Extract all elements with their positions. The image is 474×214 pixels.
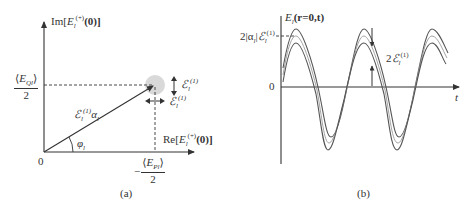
waveform-upper <box>283 29 448 137</box>
e-axis-label: El(r=0,t) <box>285 12 324 26</box>
vert-unc-sub: l <box>188 85 190 93</box>
t-axis-label: t <box>455 92 458 103</box>
origin-label: 0 <box>38 156 44 167</box>
y-tick-sub: Ql <box>26 79 33 87</box>
horiz-unc-sup: (1) <box>178 94 186 102</box>
re-axis-label: Re[El(+)(0)] <box>163 133 213 148</box>
vert-unc-sup: (1) <box>190 77 198 85</box>
e-axis-label-post: (r=0,t) <box>294 11 324 23</box>
x-tick-sign: − <box>134 166 140 177</box>
re-axis-label-pre: Re[ <box>163 133 179 145</box>
phasor-label-sym: ℰ <box>74 108 81 120</box>
figure-canvas <box>0 0 474 214</box>
x-tick-epl-over-2: − ⟨EPl⟩ 2 <box>134 157 165 185</box>
noise-band-label: 2ℰl(1) <box>386 52 409 67</box>
im-axis-label-sub: l <box>74 22 76 30</box>
x-tick-bracket-close: ⟩ <box>159 156 163 168</box>
horiz-unc-sub: l <box>176 102 178 110</box>
caption-a: (a) <box>120 188 132 199</box>
phasor-label-sup: (1) <box>83 107 91 115</box>
phasor-label-alpha-sub: l <box>97 115 99 123</box>
horiz-unc-sym: ℰ <box>169 95 176 107</box>
vertical-uncertainty-label: ℰl(1) <box>181 78 198 93</box>
im-axis-label-sym: E <box>67 15 74 27</box>
re-axis-label-post: (0)] <box>196 133 213 145</box>
caption-b: (b) <box>357 188 370 199</box>
amp-label-sym: ℰ <box>258 30 265 42</box>
amp-label-pre: 2|α <box>240 30 253 42</box>
im-axis-label-post: (0)] <box>84 15 101 27</box>
re-axis-label-sub: l <box>186 140 188 148</box>
y-tick-bracket-close: ⟩ <box>33 72 37 84</box>
y-tick-eql-over-2: ⟨EQl⟩ 2 <box>14 73 38 101</box>
re-axis-label-sym: E <box>179 133 186 145</box>
angle-label: φl <box>77 138 85 152</box>
x-tick-denominator: 2 <box>150 173 156 185</box>
panel-b-time-trace <box>276 16 459 164</box>
angle-arc <box>69 137 73 152</box>
amp-label-sub: l <box>265 37 267 45</box>
vert-unc-sym: ℰ <box>181 78 188 90</box>
phasor-label: ℰl(1)αl <box>74 108 99 123</box>
y-tick-denominator: 2 <box>23 89 29 101</box>
e-axis-label-sym: E <box>285 11 292 23</box>
im-axis-label: Im[El(+)(0)] <box>51 15 101 30</box>
horizontal-uncertainty-label: ℰl(1) <box>169 95 186 110</box>
phasor-label-sub: l <box>81 115 83 123</box>
zero-label: 0 <box>269 81 275 92</box>
amp-label-sup: (1) <box>267 29 275 37</box>
noise-label-sym: ℰ <box>392 52 399 64</box>
im-axis-label-sup: (+) <box>76 14 85 22</box>
amplitude-label: 2|αl|ℰl(1) <box>240 30 275 45</box>
re-axis-label-sup: (+) <box>188 132 197 140</box>
noise-label-sup: (1) <box>400 51 408 59</box>
noise-label-sub: l <box>399 59 401 67</box>
im-axis-label-pre: Im[ <box>51 15 67 27</box>
angle-label-sub: l <box>83 144 85 152</box>
